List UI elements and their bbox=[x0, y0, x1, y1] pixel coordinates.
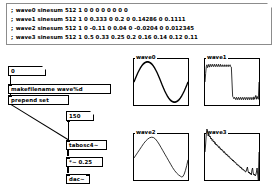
number-box-frequency-value: 150 bbox=[69, 112, 81, 120]
object-tabosc4-label: tabosc4~ bbox=[69, 141, 98, 149]
makefilename-inlet bbox=[9, 84, 12, 86]
number-box-array-index-value: 0 bbox=[11, 67, 15, 75]
graph-wave1-trace bbox=[205, 59, 259, 105]
gain-outlet bbox=[67, 166, 70, 168]
dac-inlet-left bbox=[67, 174, 70, 176]
patch-cord-freq-to-tabosc bbox=[68, 122, 69, 140]
object-dac-label: dac~ bbox=[69, 175, 85, 183]
comment-line-wave0: ;wave0 sinesum 512 1 0 0 0 0 0 0 0 0 bbox=[11, 6, 128, 14]
gain-inlet bbox=[67, 157, 70, 159]
comment-semicolon: ; bbox=[11, 34, 13, 40]
tabosc4-outlet bbox=[67, 149, 70, 151]
graph-wave2-trace bbox=[134, 134, 188, 180]
object-makefilename[interactable]: makefilename wave%d bbox=[8, 84, 111, 94]
number-box-frequency[interactable]: 150 bbox=[66, 111, 94, 121]
patch-cord-tabosc-to-gain bbox=[68, 150, 70, 156]
graph-wave2[interactable]: wave2 bbox=[133, 133, 189, 181]
object-makefilename-label: makefilename wave%d bbox=[11, 85, 83, 93]
comment-line-wave3: ;wave3 sinesum 512 1 0.5 0.33 0.25 0.2 0… bbox=[11, 33, 198, 41]
object-prepend-set[interactable]: prepend set bbox=[8, 95, 69, 105]
patch-cord-prepend-to-tabosc bbox=[10, 104, 69, 140]
graph-wave0-trace bbox=[134, 59, 188, 105]
graph-wave0-polyline bbox=[134, 62, 188, 102]
comment-semicolon: ; bbox=[11, 25, 13, 31]
comment-text: wave2 sinesum 512 1 0 -0.11 0 0.04 0 -0.… bbox=[16, 25, 194, 31]
patch-cord-gain-to-dac bbox=[68, 167, 70, 173]
graph-wave2-polyline bbox=[134, 137, 188, 177]
number-box-array-index[interactable]: 0 bbox=[8, 66, 46, 76]
object-prepend-set-label: prepend set bbox=[11, 96, 49, 104]
object-gain-multiply[interactable]: *~ 0.25 bbox=[66, 157, 103, 167]
graph-wave2-label: wave2 bbox=[135, 129, 157, 135]
graph-wave0-label: wave0 bbox=[135, 54, 157, 60]
sinesum-comment-block[interactable]: ;wave0 sinesum 512 1 0 0 0 0 0 0 0 0 ;wa… bbox=[6, 3, 272, 45]
patch-cord-index-to-makefilename bbox=[10, 76, 11, 84]
object-tabosc4[interactable]: tabosc4~ bbox=[66, 140, 107, 150]
makefilename-outlet bbox=[9, 93, 12, 95]
graph-wave1[interactable]: wave1 bbox=[204, 58, 260, 106]
object-gain-multiply-label: *~ 0.25 bbox=[69, 158, 92, 166]
comment-text: wave1 sinesum 512 1 0 0.333 0 0.2 0 0.14… bbox=[16, 16, 186, 22]
prepend-outlet bbox=[9, 104, 12, 106]
tabosc4-inlet bbox=[67, 140, 70, 142]
graph-wave3-polyline bbox=[205, 129, 259, 180]
comment-text: wave0 sinesum 512 1 0 0 0 0 0 0 0 0 bbox=[16, 7, 128, 13]
graph-wave3-trace bbox=[205, 128, 259, 182]
graph-wave1-polyline bbox=[205, 64, 259, 99]
comment-line-wave2: ;wave2 sinesum 512 1 0 -0.11 0 0.04 0 -0… bbox=[11, 24, 194, 32]
frequency-outlet bbox=[67, 120, 70, 122]
comment-line-wave1: ;wave1 sinesum 512 1 0 0.333 0 0.2 0 0.1… bbox=[11, 15, 186, 23]
comment-semicolon: ; bbox=[11, 7, 13, 13]
graph-wave0[interactable]: wave0 bbox=[133, 58, 189, 106]
dac-inlet-right bbox=[86, 174, 89, 176]
graph-wave3[interactable]: wave3 bbox=[204, 133, 260, 181]
graph-wave1-label: wave1 bbox=[206, 54, 228, 60]
comment-semicolon: ; bbox=[11, 16, 13, 22]
prepend-inlet bbox=[9, 95, 12, 97]
object-dac[interactable]: dac~ bbox=[66, 174, 90, 184]
comment-text: wave3 sinesum 512 1 0.5 0.33 0.25 0.2 0.… bbox=[16, 34, 198, 40]
